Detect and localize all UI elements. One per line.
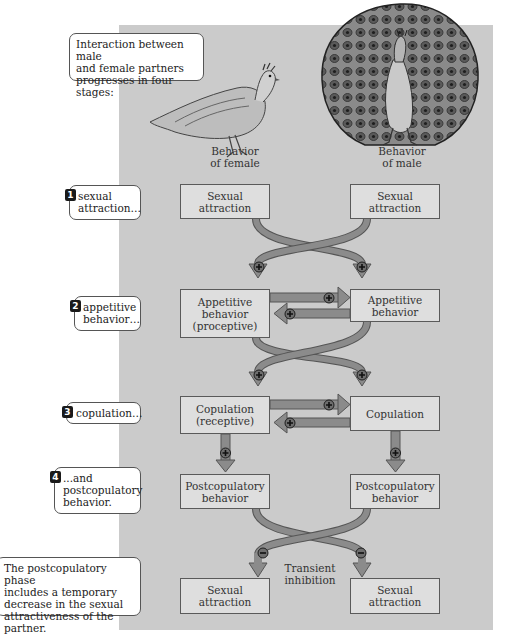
cross-arrows-stage4: [256, 509, 367, 555]
male-sexual-attraction-box: Sexual attraction: [350, 184, 440, 219]
label-line: Transient: [278, 562, 342, 574]
horizontal-arrows-stage2: [270, 287, 350, 324]
stage-line: attraction…: [78, 202, 134, 214]
stage-number-badge: 3: [62, 406, 73, 418]
label-line: inhibition: [278, 574, 342, 586]
stage-line: ...and: [63, 472, 134, 484]
box-line: attraction: [369, 202, 422, 214]
negative-sign-icon: [258, 548, 268, 558]
box-line: Postcopulatory: [185, 480, 264, 492]
stage-line: copulation…: [76, 407, 134, 419]
positive-sign-icon: [254, 262, 264, 272]
cross-arrows-stage2: [256, 322, 367, 372]
female-postcopulatory-box: Postcopulatory behavior: [180, 474, 270, 509]
box-line: attraction: [199, 202, 252, 214]
note-line: includes a temporary: [4, 586, 134, 598]
note-line: decrease in the sexual: [4, 598, 134, 610]
box-line: attraction: [199, 596, 252, 608]
box-line: attraction: [369, 596, 422, 608]
box-line: behavior: [202, 492, 249, 504]
stage-2-callout: 2 appetitive behavior…: [74, 296, 141, 331]
positive-sign-icon: [254, 370, 264, 380]
positive-sign-icon: [221, 448, 231, 458]
positive-sign-icon: [285, 309, 295, 319]
box-line: Postcopulatory: [355, 480, 434, 492]
female-appetitive-box: Appetitive behavior (proceptive): [180, 289, 270, 338]
female-sexual-attraction-box: Sexual attraction: [180, 184, 270, 219]
box-line: Appetitive: [198, 296, 253, 308]
stage-3-callout: 3 copulation…: [66, 402, 141, 424]
stage-line: behavior.: [63, 496, 134, 508]
box-line: behavior: [372, 306, 419, 318]
positive-sign-icon: [357, 370, 367, 380]
stage-line: postcopulatory: [63, 484, 134, 496]
female-copulation-box: Copulation (receptive): [180, 396, 270, 434]
box-line: Sexual: [207, 584, 243, 596]
box-line: Sexual: [207, 190, 243, 202]
box-line: (receptive): [196, 415, 254, 427]
box-line: Sexual: [377, 584, 413, 596]
cross-arrows-stage1: [256, 219, 367, 264]
arrowhead: [249, 563, 267, 577]
stage-number-badge: 1: [65, 189, 76, 201]
box-line: (proceptive): [193, 320, 258, 332]
box-line: Copulation: [196, 403, 254, 415]
stage-number-badge: 2: [70, 300, 81, 312]
negative-sign-icon: [356, 548, 366, 558]
box-line: behavior: [202, 308, 249, 320]
stage-line: appetitive: [83, 301, 134, 313]
female-sexual-attraction-final-box: Sexual attraction: [180, 578, 270, 614]
box-line: Copulation: [366, 408, 424, 420]
box-line: Sexual: [377, 190, 413, 202]
positive-sign-icon: [357, 262, 367, 272]
positive-sign-icon: [391, 448, 401, 458]
postcopulatory-note-callout: The postcopulatory phase includes a temp…: [0, 557, 141, 616]
stage-line: behavior…: [83, 313, 134, 325]
note-line: The postcopulatory phase: [4, 562, 134, 586]
box-line: behavior: [372, 492, 419, 504]
positive-sign-icon: [285, 418, 295, 428]
note-line: attractiveness of the partner.: [4, 610, 134, 634]
stage-4-callout: 4 ...and postcopulatory behavior.: [54, 467, 141, 514]
male-appetitive-box: Appetitive behavior: [350, 289, 440, 322]
positive-sign-icon: [324, 293, 334, 303]
male-postcopulatory-box: Postcopulatory behavior: [350, 474, 440, 509]
box-line: Appetitive: [368, 294, 423, 306]
stage-number-badge: 4: [50, 471, 61, 483]
positive-sign-icon: [324, 400, 334, 410]
arrowhead: [353, 563, 371, 577]
transient-inhibition-label: Transient inhibition: [278, 562, 342, 586]
male-sexual-attraction-final-box: Sexual attraction: [350, 578, 440, 614]
horizontal-arrows-stage3: [270, 394, 350, 433]
stage-line: sexual: [78, 190, 134, 202]
male-copulation-box: Copulation: [350, 396, 440, 431]
stage-1-callout: 1 sexual attraction…: [69, 185, 141, 220]
